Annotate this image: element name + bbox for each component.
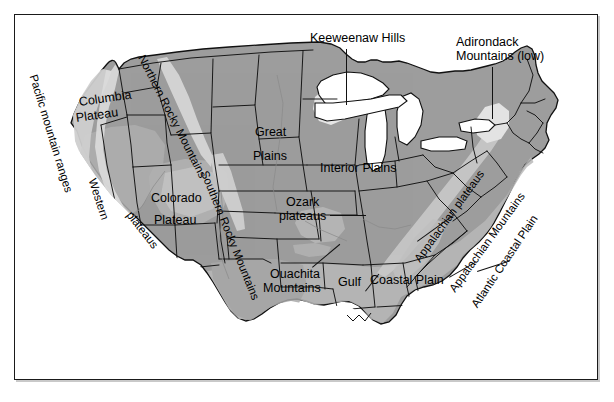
lake-erie (421, 137, 467, 151)
lake-ontario (459, 119, 495, 133)
map-canvas: Keeweenaw Hills Adirondack Mountains (lo… (15, 15, 599, 381)
united-states-physiographic-svg (15, 15, 599, 381)
map-frame: Keeweenaw Hills Adirondack Mountains (lo… (14, 14, 598, 380)
screenshot-root: Keeweenaw Hills Adirondack Mountains (lo… (0, 0, 614, 402)
